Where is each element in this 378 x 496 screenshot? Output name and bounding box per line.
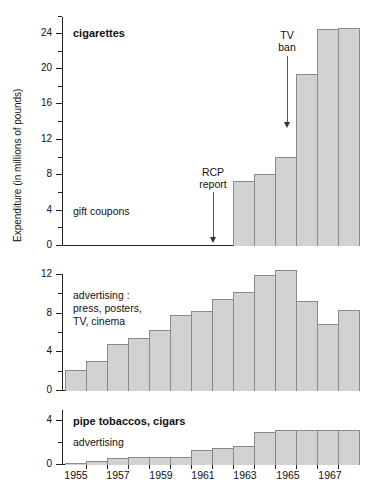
bar-cigarettes-1963 (233, 181, 255, 246)
xaxis-label-1965: 1965 (266, 470, 310, 481)
panel1-ytick-minor-26 (58, 16, 62, 17)
panel1-ytick-minor-6 (58, 192, 62, 193)
panel2-ytick-8 (56, 313, 62, 314)
xaxis-label-1959: 1959 (139, 470, 183, 481)
bar-advertising-1968 (338, 310, 360, 391)
panel1-ylabel-20: 20 (26, 63, 52, 73)
panel2-series-label-line2: press, posters, (73, 302, 142, 315)
bar-pipe-1960 (170, 457, 192, 465)
panel-cigarettes: 24 20 16 12 8 4 0 cigarettes gift coupon… (0, 0, 378, 258)
bar-advertising-1960 (170, 315, 192, 391)
panel1-ytick-minor-14 (58, 121, 62, 122)
bar-cigarettes-1968 (338, 28, 360, 246)
bar-pipe-1965 (275, 430, 297, 465)
bar-pipe-1966 (296, 430, 318, 465)
annotation-tv-ban-arrowhead (284, 122, 290, 128)
annotation-rcp-report-line (213, 192, 214, 238)
bar-pipe-1968 (338, 430, 360, 465)
panel-advertising: 12 8 4 0 advertising : press, posters, T… (0, 258, 378, 398)
bar-advertising-1961 (191, 311, 213, 391)
panel1-ylabel-4: 4 (26, 205, 52, 215)
panel2-series-label-line1: advertising : (73, 289, 130, 302)
bar-advertising-1962 (212, 299, 234, 391)
panel3-series-sublabel: advertising (73, 436, 124, 449)
panel2-y-axis (62, 274, 63, 390)
panel2-ytick-minor-2 (58, 371, 62, 372)
bar-advertising-1963 (233, 292, 255, 391)
panel3-ylabel-0: 0 (26, 459, 52, 469)
panel3-series-label: pipe tobaccos, cigars (73, 415, 185, 428)
xaxis-label-1963: 1963 (223, 470, 267, 481)
panel2-ytick-12 (56, 274, 62, 275)
bar-advertising-1956 (86, 361, 108, 391)
bar-pipe-1967 (317, 430, 339, 465)
panel1-y-axis (62, 17, 63, 245)
bar-advertising-1957 (107, 344, 129, 391)
panel1-ytick-minor-18 (58, 86, 62, 87)
annotation-rcp-report-line1: RCP (186, 166, 240, 178)
panel2-ylabel-12: 12 (26, 269, 52, 279)
annotation-rcp-report-arrowhead (210, 237, 216, 243)
panel2-series-label-line3: TV, cinema (73, 315, 125, 328)
panel1-ytick-4 (56, 210, 62, 211)
panel3-ylabel-4: 4 (26, 415, 52, 425)
bar-advertising-1959 (149, 330, 171, 391)
bar-advertising-1958 (128, 338, 150, 391)
panel1-ytick-20 (56, 68, 62, 69)
panel1-ylabel-0: 0 (26, 240, 52, 250)
panel1-series-label: cigarettes (73, 27, 125, 40)
bar-pipe-1955 (65, 463, 87, 465)
xaxis-label-1967: 1967 (308, 470, 352, 481)
panel3-y-axis (62, 410, 63, 464)
bar-advertising-1964 (254, 275, 276, 391)
bar-pipe-1962 (212, 448, 234, 465)
panel1-ytick-16 (56, 103, 62, 104)
bar-pipe-1958 (128, 457, 150, 465)
bar-pipe-1963 (233, 446, 255, 465)
bar-cigarettes-1966 (296, 74, 318, 246)
bar-pipe-1961 (191, 450, 213, 465)
bar-pipe-1957 (107, 458, 129, 465)
panel2-ylabel-4: 4 (26, 346, 52, 356)
panel1-ylabel-24: 24 (26, 28, 52, 38)
panel2-ylabel-0: 0 (26, 385, 52, 395)
bar-cigarettes-1964 (254, 174, 276, 246)
panel1-ylabel-12: 12 (26, 134, 52, 144)
panel1-ytick-minor-10 (58, 157, 62, 158)
panel1-ylabel-8: 8 (26, 169, 52, 179)
panel2-ytick-0 (56, 390, 62, 391)
panel1-ytick-24 (56, 33, 62, 34)
annotation-tv-ban-line2: ban (260, 41, 314, 53)
bar-cigarettes-1967 (317, 29, 339, 246)
panel1-series-sublabel: gift coupons (73, 205, 130, 218)
annotation-rcp-report-line2: report (186, 178, 240, 190)
annotation-tv-ban-line (287, 56, 288, 123)
panel3-ytick-minor-2 (58, 442, 62, 443)
panel2-ytick-minor-10 (58, 293, 62, 294)
bar-pipe-1964 (254, 432, 276, 465)
panel1-ylabel-16: 16 (26, 98, 52, 108)
panel2-ylabel-8: 8 (26, 308, 52, 318)
bar-pipe-1959 (149, 457, 171, 465)
panel2-ytick-minor-6 (58, 332, 62, 333)
bar-advertising-1967 (317, 324, 339, 391)
bar-advertising-1966 (296, 301, 318, 391)
panel1-ytick-minor-2 (58, 227, 62, 228)
panel1-ytick-12 (56, 139, 62, 140)
bar-advertising-1965 (275, 270, 297, 391)
panel3-ytick-4 (56, 420, 62, 421)
annotation-tv-ban-line1: TV (260, 29, 314, 41)
xaxis-label-1961: 1961 (181, 470, 225, 481)
xaxis-label-1957: 1957 (96, 470, 140, 481)
xaxis-label-1955: 1955 (54, 470, 98, 481)
bar-pipe-1956 (86, 461, 108, 465)
bar-cigarettes-1965 (275, 157, 297, 246)
panel1-ytick-8 (56, 174, 62, 175)
panel1-ytick-minor-22 (58, 51, 62, 52)
bar-advertising-1955 (65, 370, 87, 391)
panel2-ytick-4 (56, 351, 62, 352)
panel1-ytick-0 (56, 245, 62, 246)
tobacco-expenditure-figure: Expenditure (in millions of pounds) 24 2… (0, 0, 378, 496)
panel3-ytick-0 (56, 464, 62, 465)
panel-pipe-tobaccos-cigars: 4 0 pipe tobaccos, cigars advertising (0, 398, 378, 496)
